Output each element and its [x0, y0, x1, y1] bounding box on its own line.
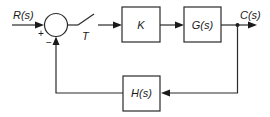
arrow-head-icon: [175, 22, 184, 29]
summing-junction: + −: [38, 14, 68, 49]
input-signal: R(s): [12, 9, 44, 29]
output-signal: C(s): [221, 9, 261, 29]
sampler-to-gain-line: [98, 22, 122, 29]
arrow-head-icon: [113, 22, 122, 29]
block-diagram: R(s) + − T K G(s) C(s): [0, 0, 270, 117]
plant-block-label: G(s): [192, 19, 214, 31]
feedback-path-left: [53, 37, 124, 94]
gain-block: K: [122, 7, 160, 42]
feedback-block-label: H(s): [131, 87, 152, 99]
plus-sign: +: [38, 28, 44, 39]
gain-block-label: K: [137, 19, 145, 31]
arrow-head-icon: [161, 90, 170, 97]
feedback-block: H(s): [123, 76, 160, 111]
minus-sign: −: [46, 37, 52, 48]
sampler-label: T: [82, 30, 90, 42]
arrow-head-icon: [53, 37, 60, 46]
plant-block: G(s): [184, 7, 221, 42]
input-label: R(s): [13, 9, 34, 21]
arrow-head-icon: [248, 22, 257, 29]
gain-to-plant-line: [160, 22, 184, 29]
sampler-switch: T: [68, 14, 95, 42]
output-label: C(s): [240, 9, 261, 21]
